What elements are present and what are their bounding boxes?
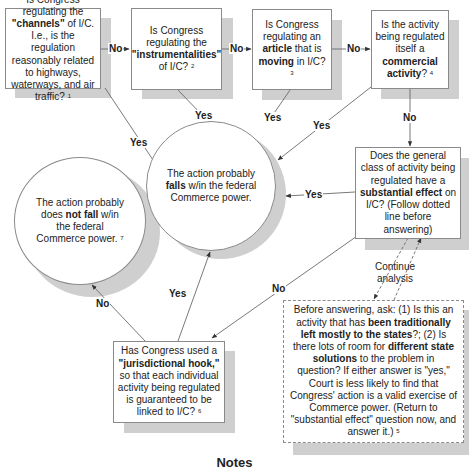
edge-label-yes-3: Yes xyxy=(263,112,282,123)
edge-label-yes-6: Yes xyxy=(168,288,187,299)
substantial-effect-question-box: Does the general class of activity being… xyxy=(355,147,461,239)
edge-label-no-6: No xyxy=(95,298,110,309)
edge-label-continue-analysis: Continue analysis xyxy=(370,261,420,285)
edge-label-no-4: No xyxy=(402,112,417,123)
commercial-question-box: Is the activity being regulated itself a… xyxy=(371,10,449,89)
not-fall-within-power-circle: The action probably does not fall w/in t… xyxy=(14,157,146,285)
edge-label-yes-5: Yes xyxy=(304,189,323,200)
edge-label-no-5: No xyxy=(271,283,286,294)
before-answering-text: Before answering, ask: (1) Is this an ac… xyxy=(290,304,457,438)
article-question-text: Is Congress regulating an article that i… xyxy=(256,19,328,80)
edge-label-yes-2: Yes xyxy=(194,110,213,121)
notes-heading: Notes xyxy=(0,455,469,470)
jurisdictional-hook-question-box: Has Congress used a "jurisdictional hook… xyxy=(113,341,225,423)
not-fall-within-power-text: The action probably does not fall w/in t… xyxy=(33,197,127,246)
instrumentalities-question-text: Is Congress regulating the "instrumental… xyxy=(132,25,222,74)
article-question-box: Is Congress regulating an article that i… xyxy=(252,9,332,90)
edge-label-no-3: No xyxy=(346,43,361,54)
channels-question-box: Is Congress regulating the "channels" of… xyxy=(5,8,101,89)
commercial-question-text: Is the activity being regulated itself a… xyxy=(375,19,445,80)
edge-label-no-2: No xyxy=(229,43,244,54)
jurisdictional-hook-question-text: Has Congress used a "jurisdictional hook… xyxy=(117,345,221,418)
before-answering-box: Before answering, ask: (1) Is this an ac… xyxy=(283,300,464,443)
falls-within-power-circle: The action probably falls w/in the feder… xyxy=(146,121,276,251)
edge-label-yes-1: Yes xyxy=(129,137,148,148)
edge-label-yes-4: Yes xyxy=(312,120,331,131)
instrumentalities-question-box: Is Congress regulating the "instrumental… xyxy=(131,8,222,90)
flowchart: Is Congress regulating the "channels" of… xyxy=(0,0,469,471)
substantial-effect-question-text: Does the general class of activity being… xyxy=(359,150,457,235)
falls-within-power-text: The action probably falls w/in the feder… xyxy=(165,168,257,205)
channels-question-text: Is Congress regulating the "channels" of… xyxy=(9,0,97,103)
edge-label-no-1: No xyxy=(108,43,123,54)
